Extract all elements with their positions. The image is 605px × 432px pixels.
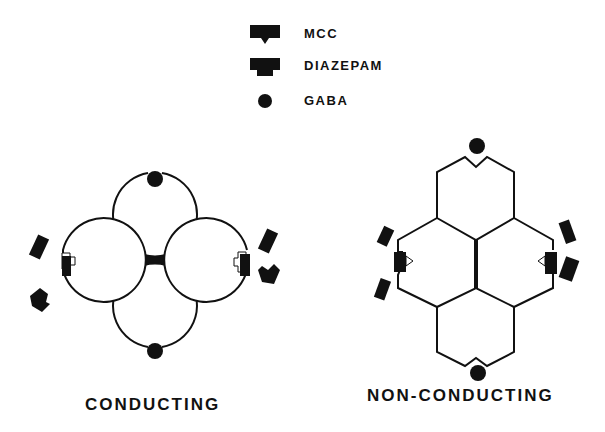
- legend-label: MCC: [304, 24, 338, 44]
- non-conducting-caption: NON-CONDUCTING: [367, 386, 554, 406]
- legend-label: GABA: [304, 91, 348, 111]
- mcc-shape-icon: [250, 25, 280, 44]
- conducting-channel: [63, 173, 247, 347]
- gaba-circle-icon: [147, 343, 163, 359]
- diazepam-shape-icon: [545, 252, 557, 274]
- diazepam-shape-icon: [250, 58, 280, 76]
- diazepam-shape-icon: [394, 252, 406, 272]
- diazepam-shape-icon: [559, 220, 577, 244]
- gaba-circle-icon: [469, 138, 485, 154]
- gaba-circle-icon: [470, 365, 486, 381]
- diazepam-shape-icon: [258, 228, 278, 253]
- diazepam-shape-icon: [377, 226, 395, 247]
- non-conducting-channel: [398, 157, 553, 366]
- conducting-caption: CONDUCTING: [85, 395, 220, 415]
- mcc-shape-icon: [374, 278, 391, 301]
- diazepam-shape-icon: [62, 256, 71, 276]
- gaba-circle-icon: [147, 171, 163, 187]
- diazepam-shape-icon: [240, 254, 250, 276]
- diagram-canvas: [0, 0, 605, 432]
- diazepam-shape-icon: [29, 234, 49, 259]
- mcc-shape-icon: [559, 256, 580, 281]
- legend-label: DIAZEPAM: [304, 56, 383, 76]
- mcc-shape-icon: [30, 288, 50, 312]
- mcc-shape-icon: [258, 264, 280, 284]
- gaba-circle-icon: [258, 94, 272, 108]
